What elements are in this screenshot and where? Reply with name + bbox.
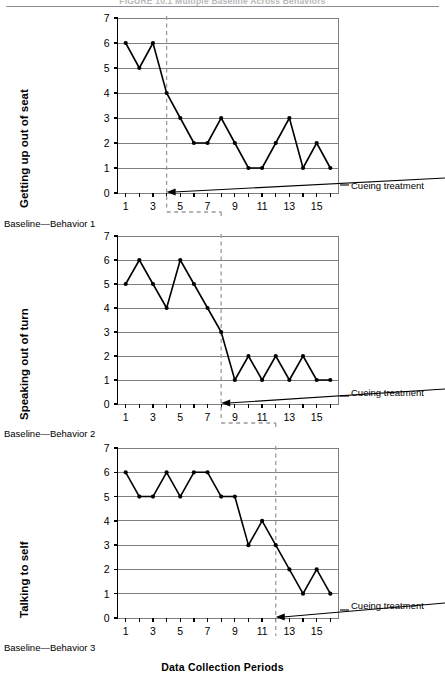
svg-text:4: 4: [104, 515, 110, 527]
svg-text:1: 1: [123, 411, 129, 423]
svg-text:2: 2: [104, 137, 110, 149]
y-axis-label-3: Talking to self: [18, 542, 30, 618]
svg-text:3: 3: [104, 539, 110, 551]
cue-annotation-2: Cueing treatment: [351, 387, 424, 398]
svg-text:0: 0: [104, 612, 110, 624]
svg-text:7: 7: [104, 442, 110, 454]
svg-text:13: 13: [284, 411, 296, 423]
chart-panel-behavior-3: Talking to self Baseline—Behavior 3 Cuei…: [0, 440, 445, 655]
svg-text:7: 7: [205, 411, 211, 423]
svg-text:0: 0: [104, 398, 110, 410]
svg-text:1: 1: [104, 162, 110, 174]
svg-text:11: 11: [257, 200, 268, 212]
svg-text:3: 3: [150, 411, 156, 423]
x-axis-title: Data Collection Periods: [0, 661, 445, 673]
title-divider: [6, 6, 439, 7]
svg-text:9: 9: [232, 411, 238, 423]
svg-text:3: 3: [104, 112, 110, 124]
svg-text:9: 9: [232, 625, 238, 637]
chart-svg-3: 0123456713579111315: [0, 440, 445, 655]
svg-text:3: 3: [150, 625, 156, 637]
svg-text:6: 6: [104, 37, 110, 49]
svg-text:1: 1: [123, 625, 129, 637]
svg-text:13: 13: [284, 200, 296, 212]
svg-text:15: 15: [311, 411, 323, 423]
baseline-label-3: Baseline—Behavior 3: [4, 642, 95, 653]
y-axis-label-2: Speaking out of turn: [18, 308, 30, 420]
svg-text:5: 5: [177, 200, 183, 212]
svg-text:7: 7: [104, 230, 110, 242]
svg-text:0: 0: [104, 187, 110, 199]
svg-text:11: 11: [257, 625, 268, 637]
svg-text:11: 11: [257, 411, 268, 423]
baseline-label-2: Baseline—Behavior 2: [4, 428, 95, 439]
chart-panel-behavior-2: Speaking out of turn Baseline—Behavior 2…: [0, 228, 445, 440]
svg-text:6: 6: [104, 254, 110, 266]
svg-text:2: 2: [104, 350, 110, 362]
y-axis-label-1: Getting up out of seat: [18, 89, 30, 208]
svg-text:4: 4: [104, 302, 110, 314]
svg-text:6: 6: [104, 466, 110, 478]
svg-text:2: 2: [104, 563, 110, 575]
chart-panel-behavior-1: Getting up out of seat Baseline—Behavior…: [0, 10, 445, 230]
svg-text:5: 5: [104, 278, 110, 290]
cue-annotation-1: Cueing treatment: [351, 180, 424, 191]
svg-text:7: 7: [104, 12, 110, 24]
svg-text:3: 3: [150, 200, 156, 212]
chart-svg-2: 0123456713579111315: [0, 228, 445, 440]
svg-text:5: 5: [104, 491, 110, 503]
svg-text:1: 1: [104, 374, 110, 386]
svg-text:4: 4: [104, 87, 110, 99]
svg-text:15: 15: [311, 200, 323, 212]
svg-text:1: 1: [104, 588, 110, 600]
cue-annotation-3: Cueing treatment: [351, 600, 424, 611]
svg-text:13: 13: [284, 625, 296, 637]
svg-text:5: 5: [177, 625, 183, 637]
svg-text:9: 9: [232, 200, 238, 212]
svg-text:7: 7: [205, 625, 211, 637]
svg-text:15: 15: [311, 625, 323, 637]
chart-svg-1: 0123456713579111315: [0, 10, 445, 230]
svg-text:5: 5: [177, 411, 183, 423]
svg-text:7: 7: [205, 200, 211, 212]
svg-text:3: 3: [104, 326, 110, 338]
svg-text:5: 5: [104, 62, 110, 74]
svg-text:1: 1: [123, 200, 129, 212]
